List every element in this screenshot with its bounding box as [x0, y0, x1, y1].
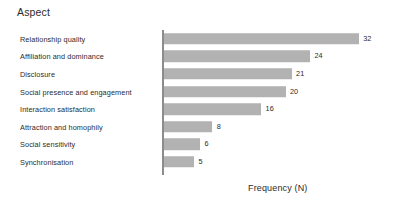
bar: [164, 33, 359, 45]
bar-row: Interaction satisfaction 16: [0, 100, 395, 118]
bar-row: Social presence and engagement 20: [0, 83, 395, 101]
bar: [164, 86, 286, 98]
category-label: Synchronisation: [20, 157, 73, 166]
bar-row: Attraction and homophily 8: [0, 118, 395, 136]
bar-value-label: 20: [290, 86, 298, 98]
bar: [164, 68, 292, 80]
bar-value-label: 16: [266, 103, 274, 115]
bar-row: Disclosure 21: [0, 65, 395, 83]
bar-value-label: 32: [363, 33, 371, 45]
bar-value-label: 8: [217, 121, 221, 133]
plot-area: Relationship quality 32 Affiliation and …: [0, 30, 395, 176]
bar: [164, 139, 201, 151]
category-label: Interaction satisfaction: [20, 105, 95, 114]
category-label: Social sensitivity: [20, 140, 75, 149]
bar-row: Social sensitivity 6: [0, 136, 395, 154]
bar-wrapper: 32: [164, 33, 372, 45]
bar-value-label: 21: [296, 68, 304, 80]
bar-wrapper: 21: [164, 68, 305, 80]
bar: [164, 156, 195, 168]
bar-value-label: 5: [199, 156, 203, 168]
bar-wrapper: 6: [164, 139, 209, 151]
category-label: Affiliation and dominance: [20, 52, 104, 61]
category-label: Attraction and homophily: [20, 122, 103, 131]
bar-wrapper: 24: [164, 51, 323, 63]
bar-wrapper: 16: [164, 103, 274, 115]
bar: [164, 51, 310, 63]
chart-title: Aspect: [17, 6, 50, 18]
bar-row: Affiliation and dominance 24: [0, 48, 395, 66]
bar-row: Relationship quality 32: [0, 30, 395, 48]
bar-chart: Aspect Relationship quality 32 Affiliati…: [0, 0, 395, 204]
bar-value-label: 24: [314, 51, 322, 63]
x-axis-label: Frequency (N): [248, 183, 307, 193]
category-label: Social presence and engagement: [20, 87, 132, 96]
bar-value-label: 6: [205, 139, 209, 151]
bar-wrapper: 8: [164, 121, 221, 133]
category-label: Relationship quality: [20, 34, 85, 43]
bar: [164, 103, 262, 115]
bar-wrapper: 5: [164, 156, 203, 168]
bar-wrapper: 20: [164, 86, 299, 98]
bar: [164, 121, 213, 133]
bar-row: Synchronisation 5: [0, 153, 395, 171]
category-label: Disclosure: [20, 69, 55, 78]
bar-rows: Relationship quality 32 Affiliation and …: [0, 30, 395, 171]
